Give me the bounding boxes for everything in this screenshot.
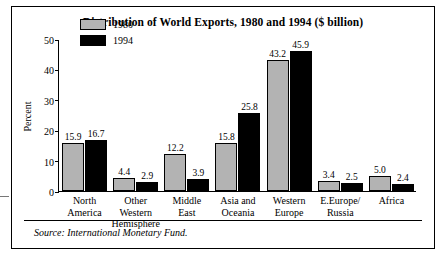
legend-swatch-1980	[80, 19, 106, 30]
legend-label-1980: 1980	[113, 19, 133, 30]
bar-value-label: 2.4	[397, 173, 409, 183]
legend-label-1994: 1994	[113, 35, 133, 46]
bar: 5.0	[369, 176, 391, 191]
bar-value-label: 2.9	[141, 171, 153, 181]
bar-group: 43.245.9WesternEurope	[264, 40, 315, 191]
bar: 2.9	[136, 182, 158, 191]
category-label-line: Other	[112, 195, 160, 207]
category-label: Asia andOceania	[220, 195, 255, 218]
source-note: Source: International Monetary Fund.	[34, 227, 188, 238]
bar-group: 5.02.4Africa	[366, 40, 417, 191]
y-tick-mark	[55, 192, 59, 193]
bar: 12.2	[164, 154, 186, 191]
plot-axes: 01020304050 15.916.7NorthAmerica4.42.9Ot…	[58, 40, 416, 192]
bar-group: 15.825.8Asia andOceania	[212, 40, 263, 191]
y-tick-label: 10	[44, 156, 54, 167]
bar: 2.4	[392, 184, 414, 191]
bar-group: 4.42.9OtherWesternHemisphere	[110, 40, 161, 191]
bar-value-label: 3.4	[323, 170, 335, 180]
legend-swatch-1994	[80, 35, 106, 46]
category-label: E.Europe/Russia	[320, 195, 360, 218]
bar-value-label: 4.4	[118, 167, 130, 177]
footer-divider	[24, 220, 422, 221]
legend-item-1980: 1980	[80, 19, 133, 30]
category-label: OtherWesternHemisphere	[112, 195, 160, 230]
bar-value-label: 45.9	[292, 40, 309, 50]
legend: 1980 1994	[80, 19, 133, 51]
bar: 45.9	[290, 51, 312, 191]
legend-item-1994: 1994	[80, 35, 133, 46]
bar: 16.7	[85, 140, 107, 191]
category-label-line: Western	[112, 207, 160, 219]
bar-group: 15.916.7NorthAmerica	[59, 40, 110, 191]
y-tick-label: 20	[44, 126, 54, 137]
category-label-line: Asia and	[220, 195, 255, 207]
category-label-line: Middle	[172, 195, 201, 207]
bar: 3.9	[187, 179, 209, 191]
bar-value-label: 43.2	[269, 49, 286, 59]
chart-title: Distribution of World Exports, 1980 and …	[12, 16, 434, 28]
chart-page: Distribution of World Exports, 1980 and …	[0, 0, 447, 263]
category-label: Africa	[379, 195, 405, 207]
bar-value-label: 3.9	[192, 168, 204, 178]
bar-value-label: 15.8	[218, 132, 235, 142]
bar-group: 3.42.5E.Europe/Russia	[315, 40, 366, 191]
bar: 3.4	[318, 181, 340, 191]
y-tick-label: 30	[44, 95, 54, 106]
bar: 15.8	[215, 143, 237, 191]
bar-group: 12.23.9MiddleEast	[161, 40, 212, 191]
bar-value-label: 5.0	[374, 165, 386, 175]
y-tick-label: 40	[44, 65, 54, 76]
category-label: WesternEurope	[273, 195, 306, 218]
category-label-line: E.Europe/	[320, 195, 360, 207]
bar: 4.4	[113, 178, 135, 191]
category-label-line: Russia	[320, 207, 360, 219]
category-label-line: Europe	[273, 207, 306, 219]
category-label: MiddleEast	[172, 195, 201, 218]
bar-value-label: 2.5	[346, 172, 358, 182]
chart-frame: Distribution of World Exports, 1980 and …	[11, 6, 435, 249]
bar: 43.2	[267, 60, 289, 191]
y-tick-label: 0	[49, 187, 54, 198]
y-axis-label: Percent	[20, 40, 34, 192]
category-label-line: America	[67, 207, 101, 219]
bar-value-label: 16.7	[88, 129, 105, 139]
y-axis-label-text: Percent	[22, 101, 33, 131]
bar: 15.9	[62, 143, 84, 191]
category-label-line: Oceania	[220, 207, 255, 219]
plot-area: 01020304050 15.916.7NorthAmerica4.42.9Ot…	[58, 40, 416, 192]
y-tick-label: 50	[44, 35, 54, 46]
bar: 2.5	[341, 183, 363, 191]
category-label-line: Western	[273, 195, 306, 207]
bar-value-label: 12.2	[167, 143, 184, 153]
category-label: NorthAmerica	[67, 195, 101, 218]
page-edge-mark	[0, 196, 9, 197]
bar: 25.8	[238, 113, 260, 191]
bar-value-label: 15.9	[65, 132, 82, 142]
bar-value-label: 25.8	[241, 102, 258, 112]
category-label-line: North	[67, 195, 101, 207]
category-label-line: Africa	[379, 195, 405, 207]
category-label-line: East	[172, 207, 201, 219]
